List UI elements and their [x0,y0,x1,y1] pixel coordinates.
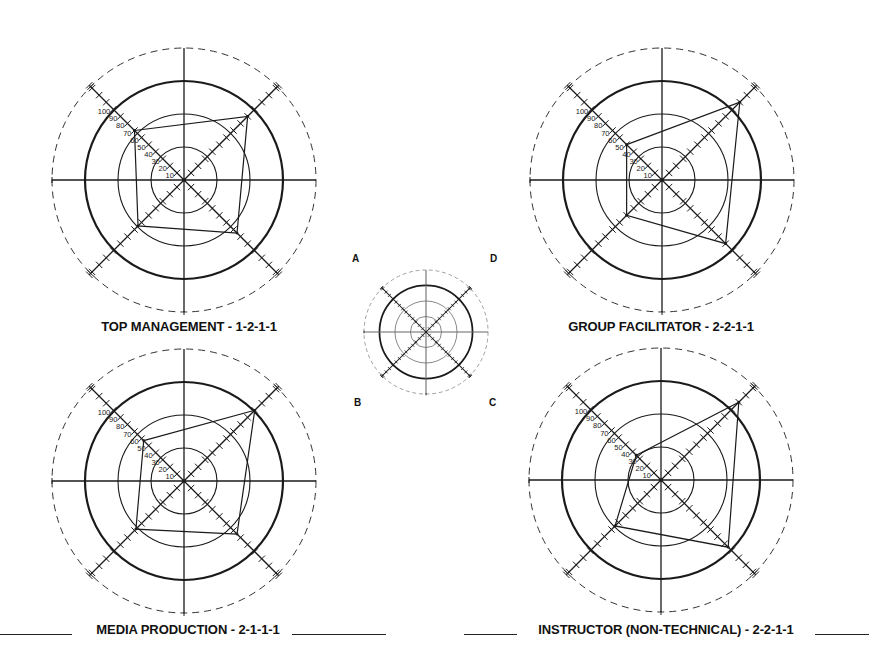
profile-point [142,439,145,442]
profile-point [737,401,740,404]
profile-point [724,242,727,245]
chart-title-media-production: MEDIA PRODUCTION - 2-1-1-1 [96,622,279,637]
radar-chart-instructor-non-technical: 102030405060708090100 [529,348,793,615]
center-point [182,479,186,483]
profile-point [135,528,138,531]
center-point [660,178,664,182]
profile-point [738,101,741,104]
quadrant-label-a: A [352,253,359,264]
profile-point [253,409,256,412]
chart-title-group-facilitator: GROUP FACILITATOR - 2-2-1-1 [568,319,754,334]
profile-point [727,546,730,549]
profile-point [625,214,628,217]
center-point [182,178,186,182]
quadrant-label-c: C [489,397,496,408]
rule-right-2 [815,634,869,635]
rule-left-1 [0,634,72,635]
rule-left-2 [292,634,386,635]
scale-label: 100 [575,407,588,416]
profile-point [133,129,136,132]
key-diagram [364,270,488,395]
radar-chart-media-production: 102030405060708090100 [52,349,316,616]
radar-chart-group-facilitator: 102030405060708090100 [530,48,794,315]
chart-title-instructor: INSTRUCTOR (NON-TECHNICAL) - 2-2-1-1 [538,622,793,637]
center-point [425,331,427,333]
center-point [659,478,663,482]
profile-point [635,454,638,457]
profile-point [236,232,239,235]
profile-point [246,115,249,118]
profile-point [137,225,140,228]
profile-point [614,525,617,528]
rule-right-1 [464,634,517,635]
chart-title-top-management: TOP MANAGEMENT - 1-2-1-1 [101,319,277,334]
scale-label: 100 [576,107,589,116]
scale-label: 100 [98,408,111,417]
diagram-canvas: 102030405060708090100 102030405060708090… [0,0,879,671]
profile-polygon [615,402,739,547]
scale-label: 100 [98,107,111,116]
radar-chart-top-management: 102030405060708090100 [52,48,316,315]
profile-point [625,143,628,146]
quadrant-label-b: B [354,397,361,408]
quadrant-label-d: D [490,253,497,264]
profile-point [236,533,239,536]
